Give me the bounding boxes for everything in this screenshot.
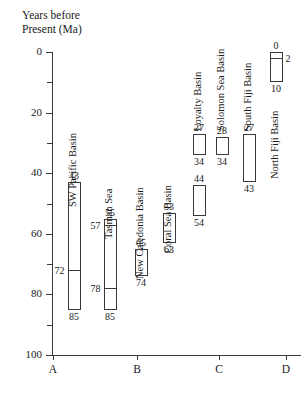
x-tick [53, 355, 54, 360]
y-tick-major [46, 52, 52, 53]
bar-segment [193, 185, 206, 215]
basin-label: South Fiji Basin [242, 63, 253, 131]
x-tick [219, 355, 220, 360]
y-tick-label: 40 [16, 166, 42, 178]
chart-figure: Years before Present (Ma) 020406080100 A… [0, 0, 308, 399]
bar-segment [270, 52, 283, 82]
y-tick-major [46, 294, 52, 295]
bar-segment [243, 134, 256, 182]
x-tick-label: D [274, 363, 298, 375]
basin-label: Loyalty Basin [192, 72, 203, 131]
bar-value-bottom: 43 [244, 183, 254, 194]
y-axis-line [52, 52, 53, 355]
basin-label: Solomon Sea Basin [215, 49, 226, 131]
x-tick-label: B [125, 363, 149, 375]
y-tick-label: 20 [16, 106, 42, 118]
bar-value-bottom: 34 [217, 156, 227, 167]
y-tick-label: 100 [16, 348, 42, 360]
y-tick-label: 80 [16, 287, 42, 299]
y-tick-label: 60 [16, 227, 42, 239]
chart-axis-title: Years before Present (Ma) [22, 8, 82, 36]
bar-value-divider: 78 [91, 283, 101, 294]
bar-value-top: 44 [194, 173, 204, 184]
bar-segment [216, 137, 229, 155]
y-tick-minor [47, 82, 52, 83]
y-tick-major [46, 234, 52, 235]
bar-value-divider: 2 [286, 53, 291, 64]
y-tick-major [46, 173, 52, 174]
bar-divider [104, 288, 117, 289]
x-tick [286, 355, 287, 360]
basin-label: Coral Sea Basin [162, 185, 173, 253]
basin-label: New Caledonia Basin [134, 187, 145, 279]
bar-divider [270, 58, 283, 59]
bar-value-divider: 72 [55, 265, 65, 276]
bar-value-bottom: 85 [69, 311, 79, 322]
x-tick-label: C [207, 363, 231, 375]
y-tick-minor [47, 143, 52, 144]
bar-value-bottom: 85 [105, 311, 115, 322]
y-tick-minor [47, 264, 52, 265]
bar-divider [68, 270, 81, 271]
x-axis-line [52, 355, 301, 356]
y-tick-minor [47, 325, 52, 326]
x-tick [137, 355, 138, 360]
x-tick-label: A [41, 363, 65, 375]
bar-value-bottom: 54 [194, 217, 204, 228]
y-tick-minor [47, 204, 52, 205]
y-tick-major [46, 355, 52, 356]
y-tick-label: 0 [16, 45, 42, 57]
bar-value-bottom: 34 [194, 156, 204, 167]
basin-label: Tasman Sea [103, 189, 114, 239]
bar-value-bottom: 10 [271, 83, 281, 94]
basin-label: SW Pacific Basin [67, 133, 78, 207]
bar-value-divider: 57 [91, 219, 101, 230]
basin-label: North Fiji Basin [269, 111, 280, 179]
bar-value-top: 0 [274, 40, 279, 51]
bar-segment [193, 134, 206, 155]
y-tick-major [46, 113, 52, 114]
